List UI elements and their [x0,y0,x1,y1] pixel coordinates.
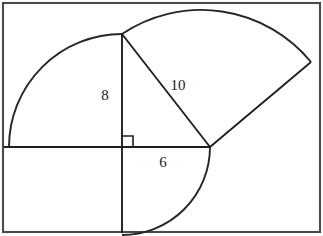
radius-line [210,62,311,147]
hypotenuse-10-arc [122,10,311,62]
outer-border-rect [3,3,320,232]
label-hypotenuse: 10 [171,77,186,93]
geometry-figure-root: 8 10 6 [0,0,323,236]
label-horizontal-leg: 6 [159,154,167,170]
right-angle-square-marker [122,136,133,147]
geometry-diagram-svg: 8 10 6 [0,0,323,236]
label-vertical-leg: 8 [101,87,109,103]
hypotenuse-line [122,34,210,147]
